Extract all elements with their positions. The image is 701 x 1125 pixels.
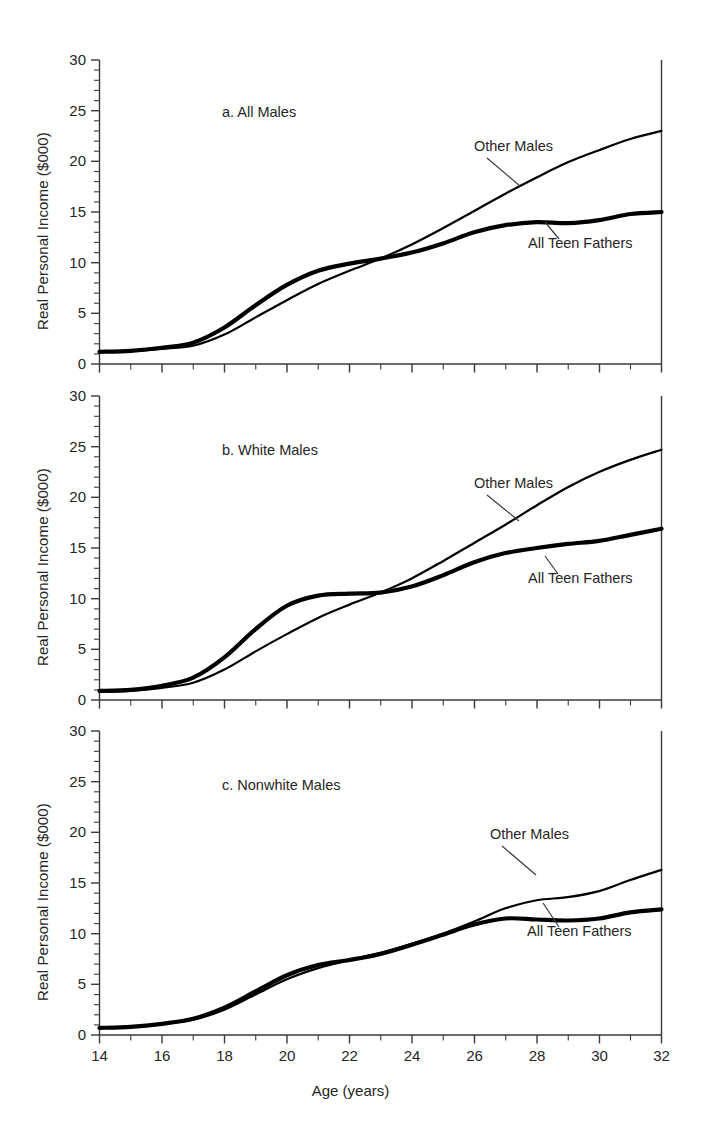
series-label-other-males-a: Other Males bbox=[474, 138, 553, 154]
y-tick-label: 20 bbox=[69, 823, 86, 840]
y-tick-label: 15 bbox=[69, 539, 86, 556]
series-label-other-males-b: Other Males bbox=[474, 475, 553, 491]
y-tick-label: 10 bbox=[69, 925, 86, 942]
chart-panel-b: 0 5 10 15 20 25 30 14 16 18 bbox=[0, 336, 701, 716]
axes-a bbox=[100, 60, 663, 364]
y-axis-ticks-c bbox=[91, 731, 100, 1035]
series-label-other-males-c: Other Males bbox=[490, 826, 569, 842]
x-tick-label: 32 bbox=[653, 1047, 670, 1064]
y-tick-label: 0 bbox=[78, 1026, 86, 1043]
y-tick-label: 10 bbox=[69, 254, 86, 271]
y-tick-label: 15 bbox=[69, 203, 86, 220]
chart-panel-a: 0 5 10 15 20 25 30 14 16 18 bbox=[0, 0, 701, 380]
series-line-other-males bbox=[100, 870, 662, 1028]
x-tick-label: 14 bbox=[91, 1047, 108, 1064]
series-label-all-teen-fathers-a: All Teen Fathers bbox=[528, 235, 633, 251]
series-line-all-teen-fathers bbox=[100, 212, 662, 352]
y-axis-labels-b: 0 5 10 15 20 25 30 bbox=[69, 387, 86, 708]
y-tick-label: 30 bbox=[69, 51, 86, 68]
y-axis-ticks-a bbox=[91, 60, 100, 364]
panel-title-b: b. White Males bbox=[222, 442, 318, 458]
series-line-all-teen-fathers bbox=[100, 529, 662, 691]
y-tick-label: 20 bbox=[69, 152, 86, 169]
y-tick-label: 20 bbox=[69, 488, 86, 505]
figure-root: 0 5 10 15 20 25 30 14 16 18 bbox=[0, 0, 701, 1125]
x-tick-label: 24 bbox=[404, 1047, 421, 1064]
leader-line-other-males-b bbox=[487, 495, 519, 521]
y-tick-label: 30 bbox=[69, 722, 86, 739]
series-label-all-teen-fathers-b: All Teen Fathers bbox=[528, 570, 633, 586]
y-tick-label: 25 bbox=[69, 773, 86, 790]
x-tick-label: 16 bbox=[154, 1047, 171, 1064]
x-tick-label: 26 bbox=[466, 1047, 483, 1064]
y-tick-label: 10 bbox=[69, 590, 86, 607]
y-axis-labels-c: 0 5 10 15 20 25 30 bbox=[69, 722, 86, 1043]
plot-svg-c: 0 5 10 15 20 25 30 14 16 18 bbox=[0, 671, 701, 1071]
panel-title-a: a. All Males bbox=[222, 104, 296, 120]
axes-b bbox=[100, 396, 663, 700]
x-tick-label: 22 bbox=[341, 1047, 358, 1064]
series-label-all-teen-fathers-c: All Teen Fathers bbox=[527, 923, 632, 939]
y-tick-label: 25 bbox=[69, 102, 86, 119]
leader-line-other-males-a bbox=[487, 158, 520, 186]
plot-svg-a: 0 5 10 15 20 25 30 14 16 18 bbox=[0, 0, 701, 380]
y-axis-title-b: Real Personal Income ($000) bbox=[34, 468, 51, 666]
x-tick-label: 30 bbox=[591, 1047, 608, 1064]
leader-line-other-males-c bbox=[502, 846, 536, 875]
y-tick-label: 5 bbox=[78, 975, 86, 992]
y-tick-label: 30 bbox=[69, 387, 86, 404]
x-axis-labels-c: 14 16 18 20 22 24 26 28 30 32 bbox=[91, 1047, 670, 1064]
chart-panel-c: 0 5 10 15 20 25 30 14 16 18 bbox=[0, 671, 701, 1071]
y-tick-label: 5 bbox=[78, 640, 86, 657]
y-tick-label: 15 bbox=[69, 874, 86, 891]
y-axis-labels-a: 0 5 10 15 20 25 30 bbox=[69, 51, 86, 372]
panel-title-c: c. Nonwhite Males bbox=[222, 777, 340, 793]
x-tick-label: 18 bbox=[216, 1047, 233, 1064]
plot-svg-b: 0 5 10 15 20 25 30 14 16 18 bbox=[0, 336, 701, 716]
y-tick-label: 5 bbox=[78, 304, 86, 321]
y-axis-title-c: Real Personal Income ($000) bbox=[34, 803, 51, 1001]
x-axis-title: Age (years) bbox=[0, 1082, 701, 1099]
x-tick-label: 20 bbox=[279, 1047, 296, 1064]
x-axis-minor-ticks-c bbox=[131, 1035, 631, 1041]
y-axis-ticks-b bbox=[91, 396, 100, 700]
y-axis-title-a: Real Personal Income ($000) bbox=[34, 132, 51, 330]
y-tick-label: 25 bbox=[69, 438, 86, 455]
x-tick-label: 28 bbox=[529, 1047, 546, 1064]
axes-c bbox=[100, 731, 663, 1035]
